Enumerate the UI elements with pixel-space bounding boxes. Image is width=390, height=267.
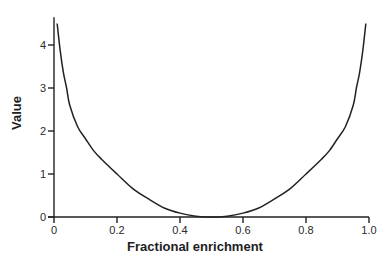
x-tick-label: 0 (51, 224, 57, 236)
x-tick-label: 0.2 (109, 224, 124, 236)
y-axis-ticks: 01234 (40, 39, 54, 223)
y-tick-label: 1 (40, 168, 46, 180)
data-curve (57, 24, 366, 218)
y-tick-label: 3 (40, 82, 46, 94)
y-tick-label: 2 (40, 125, 46, 137)
x-axis-ticks: 00.20.40.60.81.0 (51, 217, 377, 236)
x-tick-label: 1.0 (361, 224, 376, 236)
y-tick-label: 4 (40, 39, 46, 51)
x-tick-label: 0.6 (235, 224, 250, 236)
chart: 00.20.40.60.81.0 01234 Fractional enrich… (0, 0, 390, 267)
x-tick-label: 0.8 (298, 224, 313, 236)
y-tick-label: 0 (40, 211, 46, 223)
axes (48, 17, 369, 217)
y-axis-title: Value (9, 96, 24, 130)
x-tick-label: 0.4 (172, 224, 187, 236)
x-axis-title: Fractional enrichment (127, 239, 263, 254)
